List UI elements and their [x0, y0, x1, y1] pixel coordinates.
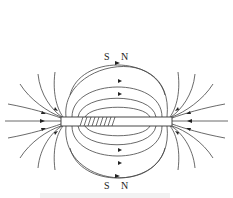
caption-cutoff: [40, 193, 170, 198]
bar-magnet: [61, 117, 172, 126]
field-lines-svg: [0, 0, 233, 198]
top-compass-s-label: S: [104, 52, 110, 62]
bottom-compass-n-label: N: [121, 181, 128, 191]
magnetic-field-diagram: S N S N: [0, 0, 233, 198]
bottom-compass-s-label: S: [104, 181, 110, 191]
top-compass-n-label: N: [121, 52, 128, 62]
